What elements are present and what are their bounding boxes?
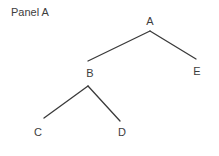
tree-diagram: A B C D E [0, 0, 219, 156]
branch-a-e [150, 31, 196, 59]
branch-b-d [88, 86, 120, 121]
branch-a-b [88, 31, 150, 61]
node-label-a: A [146, 15, 154, 27]
node-label-d: D [118, 126, 126, 138]
figure-panel: Panel A A B C D E [0, 0, 219, 156]
branch-b-c [44, 86, 88, 118]
tree-branches [44, 31, 196, 121]
node-label-c: C [34, 126, 42, 138]
node-label-e: E [193, 65, 200, 77]
tree-node-labels: A B C D E [34, 15, 201, 138]
node-label-b: B [86, 67, 93, 79]
